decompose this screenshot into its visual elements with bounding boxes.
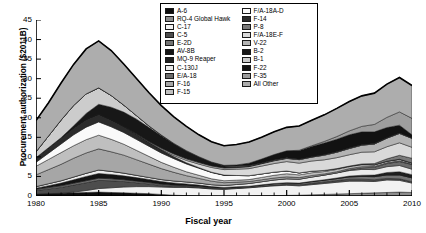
legend-swatch — [165, 16, 174, 22]
legend-label: All Other — [254, 81, 279, 87]
legend-label: AV-8B — [177, 48, 195, 54]
legend-item: E-2D — [165, 39, 238, 47]
legend-label: B-2 — [254, 48, 264, 54]
legend-swatch — [165, 81, 174, 87]
legend-swatch — [242, 57, 251, 63]
legend-label: E/A-18 — [177, 73, 197, 79]
legend-label: F-14 — [254, 16, 267, 22]
y-tick-label: 45 — [10, 16, 32, 24]
legend-column-1: A-6RQ-4 Global HawkC-17C-5E-2DAV-8BMQ-9 … — [165, 7, 238, 101]
legend-label: F-15 — [177, 89, 190, 95]
legend-swatch — [165, 40, 174, 46]
x-tick-label: 1995 — [209, 200, 239, 208]
legend-swatch — [165, 89, 174, 95]
legend-swatch — [242, 16, 251, 22]
legend-swatch — [242, 40, 251, 46]
legend-swatch — [242, 49, 251, 55]
legend-item: V-22 — [242, 39, 315, 47]
legend-label: F/A-18E-F — [254, 32, 283, 38]
legend-swatch — [242, 65, 251, 71]
legend-item: F-35 — [242, 72, 315, 80]
x-tick-label: 1980 — [21, 200, 51, 208]
x-tick-label: 2005 — [334, 200, 364, 208]
legend-label: RQ-4 Global Hawk — [177, 16, 230, 22]
legend-item: F-14 — [242, 15, 315, 23]
legend-label: P-8 — [254, 24, 264, 30]
legend-item: C-130J — [165, 64, 238, 72]
legend-swatch — [165, 73, 174, 79]
legend-item: F-22 — [242, 64, 315, 72]
legend-swatch — [165, 65, 174, 71]
legend-item: C-17 — [165, 23, 238, 31]
legend-label: C-17 — [177, 24, 191, 30]
x-tick-label: 2000 — [272, 200, 302, 208]
legend-swatch — [242, 32, 251, 38]
legend-item: F-15 — [165, 88, 238, 96]
legend-item: RQ-4 Global Hawk — [165, 15, 238, 23]
legend-label: A-6 — [177, 8, 187, 14]
legend-item: F-16 — [165, 80, 238, 88]
legend-label: F-16 — [177, 81, 190, 87]
legend-item: C-5 — [165, 31, 238, 39]
legend-item: All Other — [242, 80, 315, 88]
legend-label: F/A-18A-D — [254, 8, 284, 14]
legend-label: F-22 — [254, 65, 267, 71]
legend-label: C-5 — [177, 32, 187, 38]
legend-label: MQ-9 Reaper — [177, 56, 216, 62]
y-tick-label: 15 — [10, 133, 32, 141]
legend-swatch — [165, 49, 174, 55]
legend-item: E/A-18 — [165, 72, 238, 80]
legend-swatch — [165, 24, 174, 30]
legend-item: F/A-18E-F — [242, 31, 315, 39]
y-tick-label: 10 — [10, 153, 32, 161]
legend-label: E-2D — [177, 40, 192, 46]
x-tick-label: 1985 — [84, 200, 114, 208]
legend-column-2: F/A-18A-DF-14P-8F/A-18E-FV-22B-2B-1F-22F… — [242, 7, 315, 101]
x-tick-label: 1990 — [146, 200, 176, 208]
legend-label: V-22 — [254, 40, 267, 46]
legend-swatch — [242, 73, 251, 79]
legend-label: C-130J — [177, 65, 198, 71]
legend-item: MQ-9 Reaper — [165, 56, 238, 64]
legend-swatch — [165, 8, 174, 14]
y-tick-label: 5 — [10, 172, 32, 180]
y-tick-label: 20 — [10, 114, 32, 122]
legend-item: P-8 — [242, 23, 315, 31]
y-tick-label: 30 — [10, 75, 32, 83]
y-tick-label: 35 — [10, 55, 32, 63]
x-tick-label: 2010 — [397, 200, 426, 208]
legend-swatch — [242, 8, 251, 14]
y-tick-label: 25 — [10, 94, 32, 102]
legend-swatch — [242, 24, 251, 30]
legend-label: F-35 — [254, 73, 267, 79]
legend-item: B-1 — [242, 56, 315, 64]
legend-item: F/A-18A-D — [242, 7, 315, 15]
legend-swatch — [242, 81, 251, 87]
legend-item: AV-8B — [165, 47, 238, 55]
x-axis-title: Fiscal year — [0, 216, 417, 226]
y-tick-label: 40 — [10, 36, 32, 44]
legend-swatch — [165, 32, 174, 38]
legend-item: B-2 — [242, 47, 315, 55]
legend-item: A-6 — [165, 7, 238, 15]
chart-legend: A-6RQ-4 Global HawkC-17C-5E-2DAV-8BMQ-9 … — [160, 3, 318, 104]
legend-label: B-1 — [254, 56, 264, 62]
legend-swatch — [165, 57, 174, 63]
